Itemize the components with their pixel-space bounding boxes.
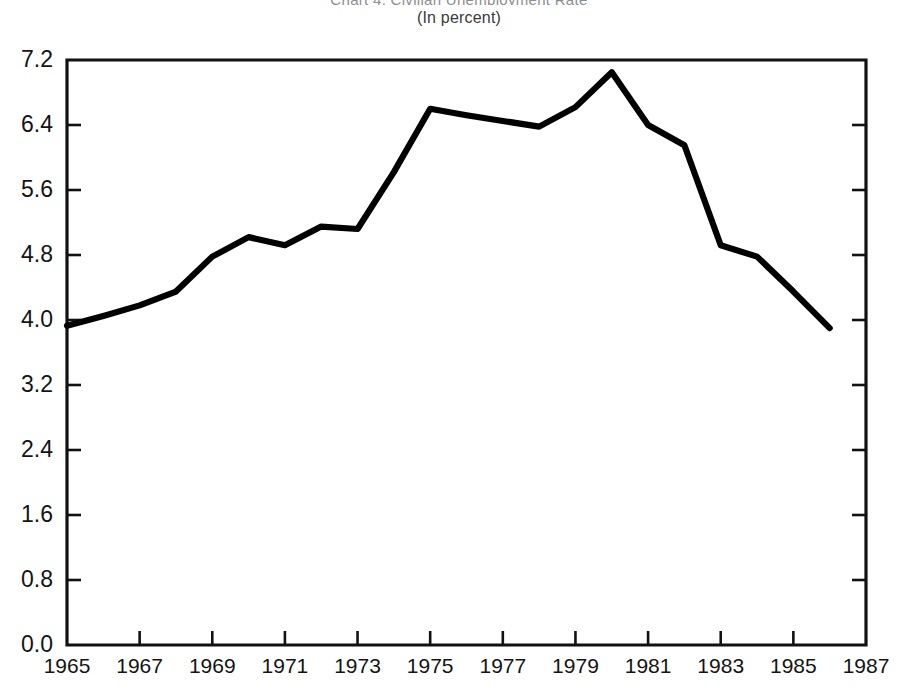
y-tick-label: 2.4 [21,436,53,462]
x-tick-label: 1987 [843,654,890,677]
line-chart-svg: 0.00.81.62.43.24.04.85.66.47.2 196519671… [0,0,918,695]
plot-area: 0.00.81.62.43.24.04.85.66.47.2 196519671… [0,0,918,695]
x-tick-label: 1975 [407,654,454,677]
x-axis-ticks [140,631,794,645]
x-tick-label: 1965 [44,654,91,677]
x-tick-label: 1973 [334,654,381,677]
unemployment-rate-line [67,72,830,328]
x-tick-label: 1969 [189,654,236,677]
unemployment-rate-figure: Chart 4. Civilian Unemployment Rate (In … [0,0,918,695]
y-tick-label: 5.6 [21,176,53,202]
y-axis-labels: 0.00.81.62.43.24.04.85.66.47.2 [21,46,53,657]
y-axis-ticks [67,125,866,580]
y-tick-label: 7.2 [21,46,53,72]
y-tick-label: 6.4 [21,111,53,137]
x-tick-label: 1985 [770,654,817,677]
x-tick-label: 1977 [479,654,526,677]
x-axis-labels: 1965196719691971197319751977197919811983… [44,654,890,677]
x-tick-label: 1967 [116,654,163,677]
y-tick-label: 4.0 [21,306,53,332]
y-tick-label: 4.8 [21,241,53,267]
x-tick-label: 1981 [625,654,672,677]
x-tick-label: 1971 [262,654,309,677]
x-tick-label: 1979 [552,654,599,677]
y-tick-label: 1.6 [21,501,53,527]
axis-frame [67,60,866,645]
x-tick-label: 1983 [697,654,744,677]
y-tick-label: 3.2 [21,371,53,397]
y-tick-label: 0.8 [21,566,53,592]
